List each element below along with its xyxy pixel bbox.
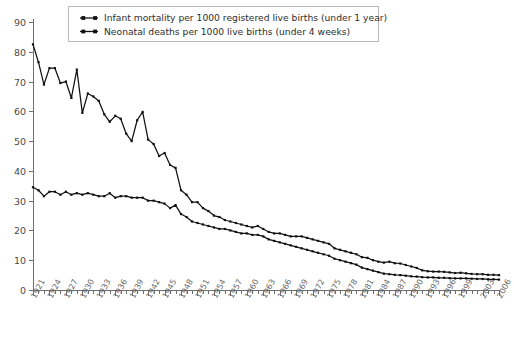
data-point: [306, 237, 308, 239]
data-point: [43, 195, 45, 197]
x-tick-label: 1996: [440, 278, 458, 300]
data-point: [487, 278, 489, 280]
data-point: [416, 267, 418, 269]
data-point: [388, 273, 390, 275]
x-tick-label: 1972: [309, 278, 327, 300]
series-line-1: [33, 44, 499, 275]
data-point: [361, 256, 363, 258]
data-point: [114, 197, 116, 199]
data-point: [54, 191, 56, 193]
x-tick-label: 1981: [358, 278, 376, 300]
x-tick-label: 1999: [457, 278, 475, 300]
y-tick-label: 20: [14, 225, 26, 236]
data-point: [87, 192, 89, 194]
data-point: [169, 207, 171, 209]
data-point: [180, 213, 182, 215]
chart-container: 0102030405060708090192119241927193019331…: [0, 0, 514, 346]
data-point: [158, 155, 160, 157]
x-tick-label: 1954: [210, 278, 228, 300]
data-point: [268, 231, 270, 233]
data-point: [460, 277, 462, 279]
data-point: [142, 197, 144, 199]
data-point: [405, 275, 407, 277]
x-tick-label: 1942: [144, 278, 162, 300]
data-point: [449, 277, 451, 279]
data-point: [394, 262, 396, 264]
legend-swatch-marker-start: [81, 16, 85, 20]
y-tick-label: 90: [14, 17, 26, 28]
data-point: [98, 195, 100, 197]
data-point: [136, 197, 138, 199]
data-point: [43, 83, 45, 85]
x-tick-label: 1948: [177, 278, 195, 300]
data-point: [32, 186, 34, 188]
data-point: [109, 192, 111, 194]
data-point: [350, 262, 352, 264]
data-point: [279, 232, 281, 234]
data-point: [191, 201, 193, 203]
y-tick-label: 80: [14, 47, 26, 58]
data-point: [498, 274, 500, 276]
data-point: [312, 250, 314, 252]
x-tick-label: 2003: [479, 278, 497, 300]
data-point: [290, 235, 292, 237]
data-point: [262, 235, 264, 237]
data-point: [251, 234, 253, 236]
data-point: [306, 249, 308, 251]
data-point: [421, 276, 423, 278]
data-point: [399, 274, 401, 276]
data-point: [103, 195, 105, 197]
data-point: [301, 247, 303, 249]
series-line-2: [33, 187, 499, 279]
x-tick-label: 1993: [424, 278, 442, 300]
y-tick-label: 40: [14, 166, 26, 177]
data-point: [460, 272, 462, 274]
x-tick-label: 1969: [292, 278, 310, 300]
data-point: [443, 271, 445, 273]
data-point: [153, 143, 155, 145]
x-tick-label: 1960: [243, 278, 261, 300]
data-point: [48, 191, 50, 193]
data-point: [481, 273, 483, 275]
data-point: [98, 100, 100, 102]
data-point: [180, 189, 182, 191]
x-tick-label: 1945: [161, 278, 179, 300]
data-point: [48, 67, 50, 69]
data-point: [65, 80, 67, 82]
data-point: [76, 192, 78, 194]
data-point: [70, 97, 72, 99]
data-point: [229, 229, 231, 231]
x-tick-label: 1984: [375, 278, 393, 300]
data-point: [284, 234, 286, 236]
data-point: [169, 164, 171, 166]
x-tick-label: 1963: [260, 278, 278, 300]
data-point: [147, 139, 149, 141]
data-point: [207, 210, 209, 212]
data-point: [410, 265, 412, 267]
data-point: [224, 219, 226, 221]
data-point: [492, 274, 494, 276]
y-tick-label: 0: [20, 285, 26, 296]
data-point: [131, 140, 133, 142]
data-point: [268, 238, 270, 240]
data-point: [339, 249, 341, 251]
legend-swatch-marker-start: [81, 30, 85, 34]
data-point: [394, 274, 396, 276]
data-point: [301, 235, 303, 237]
x-tick-label: 1927: [62, 278, 80, 300]
data-point: [443, 277, 445, 279]
data-point: [328, 243, 330, 245]
data-point: [59, 82, 61, 84]
y-tick-label: 70: [14, 77, 26, 88]
data-point: [432, 270, 434, 272]
data-point: [76, 69, 78, 71]
data-point: [492, 278, 494, 280]
data-point: [339, 259, 341, 261]
data-point: [427, 270, 429, 272]
data-point: [92, 95, 94, 97]
data-point: [454, 272, 456, 274]
data-point: [218, 216, 220, 218]
data-point: [498, 278, 500, 280]
data-point: [355, 253, 357, 255]
data-point: [372, 259, 374, 261]
